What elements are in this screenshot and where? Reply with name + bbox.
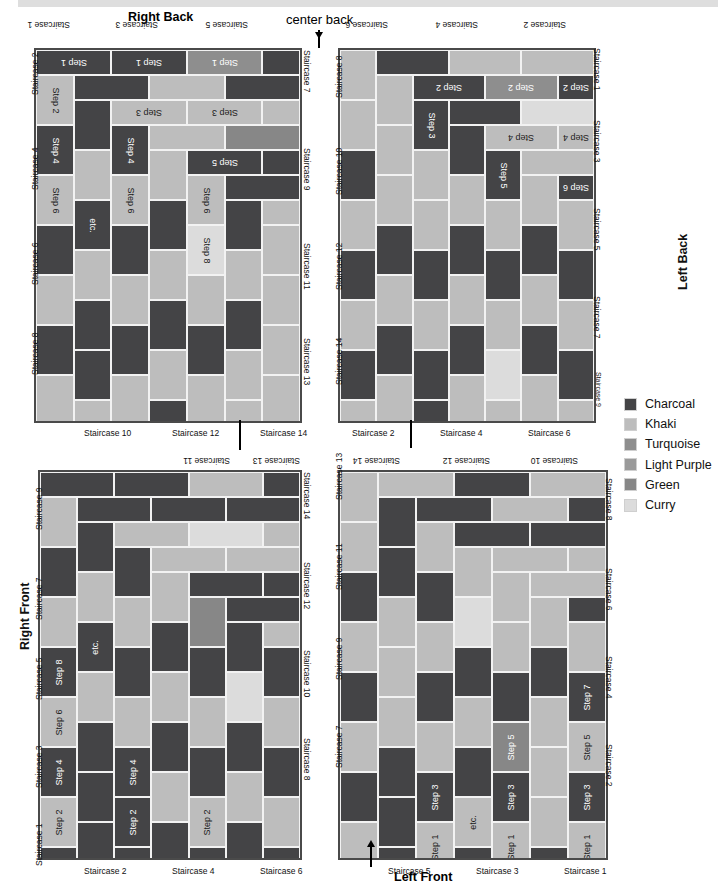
brick-tile <box>40 847 77 860</box>
brick-tile <box>378 697 416 747</box>
brick-tile: Step 4 <box>114 747 151 797</box>
staircase-label: Staircase 5 <box>205 20 248 30</box>
brick-tile: Step 2 <box>558 75 594 100</box>
brick-tile <box>413 400 449 423</box>
brick-tile <box>558 200 594 250</box>
brick-tile <box>263 622 300 647</box>
brick-tile <box>416 572 454 622</box>
staircase-label: Staircase 8 <box>604 478 614 521</box>
brick-tile <box>114 697 151 747</box>
brick-tile <box>530 797 568 847</box>
brick-tile <box>187 325 225 375</box>
brick-tile <box>187 375 225 423</box>
brick-tile <box>568 547 606 572</box>
legend-item: Green <box>624 475 712 495</box>
staircase-label: Staircase 2 <box>523 20 566 30</box>
brick-tile <box>225 400 263 423</box>
brick-tile <box>151 572 188 622</box>
brick-tile <box>263 797 300 847</box>
step-label: Step 6 <box>54 709 63 735</box>
step-label: Step 2 <box>436 83 462 92</box>
brick-tile: Step 6 <box>187 175 225 225</box>
legend-item: Turquoise <box>624 434 712 454</box>
connector-tick <box>410 420 412 448</box>
brick-tile <box>530 472 606 497</box>
brick-tile <box>187 275 225 325</box>
legend-swatch-green <box>624 478 637 491</box>
brick-tile <box>263 697 300 747</box>
brick-tile <box>530 647 568 697</box>
legend-label: Khaki <box>645 417 676 431</box>
brick-tile <box>530 697 568 747</box>
brick-tile <box>340 250 376 300</box>
brick-tile <box>376 225 412 275</box>
staircase-label: Staircase 5 <box>34 657 44 700</box>
brick-tile <box>262 325 300 375</box>
brick-tile <box>376 375 412 423</box>
brick-tile <box>114 522 188 547</box>
brick-tile <box>521 375 557 423</box>
staircase-label: Staircase 9 <box>34 487 44 530</box>
brick-tile <box>449 275 485 325</box>
brick-tile <box>521 275 557 325</box>
staircase-label: Staircase 14 <box>302 472 312 519</box>
brick-tile <box>340 772 378 822</box>
brick-tile <box>340 300 376 350</box>
brick-tile <box>492 672 530 722</box>
brick-tile <box>114 472 188 497</box>
legend-label: Light Purple <box>645 458 712 472</box>
brick-tile <box>151 822 188 860</box>
brick-tile <box>340 722 378 772</box>
brick-tile: Step 3 <box>492 772 530 822</box>
legend-item: Khaki <box>624 414 712 434</box>
staircase-label: Staircase 12 <box>172 428 219 438</box>
legend-swatch-charcoal <box>624 398 637 411</box>
brick-tile: Step 2 <box>114 797 151 847</box>
brick-tile <box>340 50 376 100</box>
brick-tile <box>376 175 412 225</box>
brick-grid-right-front: etc.Step 8Step 6Step 4Step 4Step 2Step 2… <box>38 470 302 860</box>
brick-tile <box>416 672 454 722</box>
brick-tile: Step 1 <box>187 50 262 75</box>
brick-tile <box>340 350 376 400</box>
staircase-label: Staircase 8 <box>334 55 344 98</box>
brick-tile: Step 6 <box>40 697 77 747</box>
step-label: Step 1 <box>61 58 87 67</box>
brick-tile <box>226 597 300 622</box>
step-label: Step 1 <box>507 834 516 860</box>
step-label: etc. <box>468 815 477 830</box>
brick-tile <box>485 400 521 423</box>
brick-tile <box>114 847 151 860</box>
brick-tile <box>568 622 606 672</box>
staircase-label: Staircase 6 <box>260 866 303 876</box>
brick-tile <box>376 75 412 125</box>
step-label: Step 7 <box>583 684 592 710</box>
step-label: Step 2 <box>54 809 63 835</box>
brick-tile <box>449 50 522 75</box>
brick-tile <box>530 847 568 860</box>
brick-tile <box>74 250 112 300</box>
staircase-label: Staircase 11 <box>334 543 344 590</box>
staircase-label: Staircase 10 <box>302 650 312 697</box>
brick-tile <box>454 597 492 647</box>
left-front-arrow-icon <box>367 840 375 847</box>
brick-tile: Step 1 <box>111 50 186 75</box>
brick-tile <box>189 697 226 747</box>
brick-tile <box>149 400 187 423</box>
brick-tile <box>378 847 416 860</box>
staircase-label: Staircase 7 <box>302 50 312 93</box>
brick-tile <box>74 150 112 200</box>
brick-tile <box>74 75 149 100</box>
brick-tile <box>226 622 263 672</box>
step-label: Step 5 <box>507 734 516 760</box>
brick-tile <box>521 325 557 375</box>
brick-tile <box>454 522 530 547</box>
legend-item: Charcoal <box>624 394 712 414</box>
brick-tile <box>149 200 187 250</box>
brick-tile <box>558 300 594 350</box>
staircase-label: Staircase 13 <box>302 338 312 385</box>
legend-label: Turquoise <box>645 437 700 451</box>
brick-tile <box>225 75 300 100</box>
staircase-label: Staircase 6 <box>604 568 614 611</box>
brick-tile <box>40 472 114 497</box>
